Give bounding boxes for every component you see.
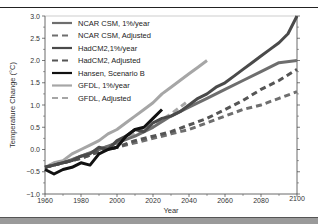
y-tick-label: −0.5 xyxy=(26,168,40,175)
x-tick-label: 2080 xyxy=(253,197,269,204)
y-tick-label: 2.0 xyxy=(30,57,40,64)
x-tick-label: 2060 xyxy=(217,197,233,204)
legend-label: NCAR CSM, Adjusted xyxy=(78,31,151,40)
temperature-chart: −1.0−0.50.00.51.01.52.02.53.019601980200… xyxy=(0,0,318,224)
x-axis-title: Year xyxy=(163,206,179,215)
y-tick-label: 0.5 xyxy=(30,124,40,131)
legend-label: HadCM2, Adjusted xyxy=(78,56,141,65)
x-tick-label: 2040 xyxy=(181,197,197,204)
legend-label: HadCM2,1%/year xyxy=(78,44,138,53)
y-tick-label: 1.5 xyxy=(30,79,40,86)
x-tick-label: 1960 xyxy=(37,197,53,204)
x-tick-label: 2000 xyxy=(109,197,125,204)
x-tick-label: 1980 xyxy=(73,197,89,204)
x-tick-label: 2100 xyxy=(289,195,305,202)
legend-label: NCAR CSM, 1%/year xyxy=(78,19,150,28)
legend: NCAR CSM, 1%/yearNCAR CSM, AdjustedHadCM… xyxy=(52,19,151,103)
x-tick-label: 2020 xyxy=(145,197,161,204)
y-tick-label: 2.5 xyxy=(30,35,40,42)
legend-label: GFDL, Adjusted xyxy=(78,94,131,103)
legend-label: GFDL, 1%/year xyxy=(78,81,130,90)
y-tick-label: 3.0 xyxy=(30,13,40,20)
y-axis-title: Temperature Change (°C) xyxy=(8,62,17,148)
y-tick-label: 0.0 xyxy=(30,146,40,153)
y-tick-label: 1.0 xyxy=(30,102,40,109)
axes: −1.0−0.50.00.51.01.52.02.53.019601980200… xyxy=(26,13,305,205)
legend-label: Hansen, Scenario B xyxy=(78,69,145,78)
